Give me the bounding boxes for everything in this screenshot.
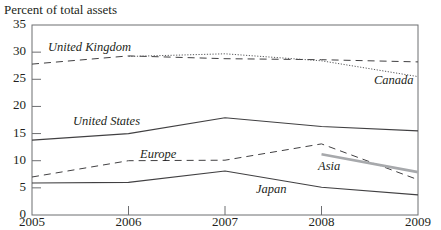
- x-tick-label: 2005: [12, 215, 52, 228]
- series-line-united-kingdom: [32, 56, 418, 64]
- plot-area: [0, 0, 441, 230]
- y-tick-label: 35: [2, 17, 26, 30]
- series-label-united-kingdom: United Kingdom: [48, 41, 131, 54]
- series-line-japan: [32, 171, 418, 195]
- x-tick-label: 2009: [398, 215, 438, 228]
- y-tick-label: 20: [2, 98, 26, 111]
- series-label-asia: Asia: [318, 160, 340, 173]
- series-label-united-states: United States: [73, 115, 140, 128]
- x-tick-label: 2007: [205, 215, 245, 228]
- series-label-europe: Europe: [140, 148, 176, 161]
- y-tick-label: 30: [2, 44, 26, 57]
- line-chart: Percent of total assets 05101520253035 2…: [0, 0, 441, 230]
- x-tick-label: 2006: [109, 215, 149, 228]
- series-label-canada: Canada: [374, 74, 414, 87]
- x-tick-label: 2008: [302, 215, 342, 228]
- y-tick-label: 10: [2, 153, 26, 166]
- series-label-japan: Japan: [256, 183, 287, 196]
- y-tick-label: 5: [2, 180, 26, 193]
- y-tick-label: 25: [2, 71, 26, 84]
- y-tick-label: 15: [2, 126, 26, 139]
